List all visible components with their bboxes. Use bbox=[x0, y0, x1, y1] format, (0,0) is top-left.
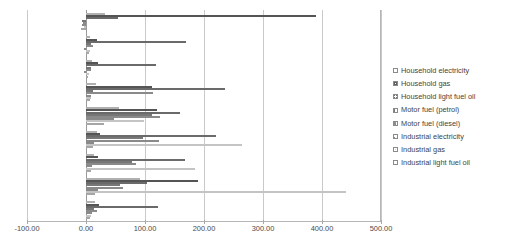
legend-label: Industrial electricity bbox=[401, 133, 464, 140]
plot-area bbox=[27, 10, 381, 222]
bar-group bbox=[27, 198, 381, 222]
x-axis-tick-label: -100.00 bbox=[14, 224, 39, 233]
bar bbox=[86, 217, 90, 219]
bar bbox=[86, 92, 153, 94]
bar bbox=[81, 28, 86, 30]
bar-group bbox=[27, 104, 381, 128]
x-axis-tick-label: 500.00 bbox=[370, 224, 393, 233]
legend-swatch-icon bbox=[393, 81, 398, 86]
legend-item[interactable]: Household gas bbox=[393, 77, 505, 90]
legend-item[interactable]: Motor fuel (diesel) bbox=[393, 117, 505, 130]
x-axis-tick-label: 400.00 bbox=[311, 224, 334, 233]
bar bbox=[86, 45, 93, 47]
bar bbox=[86, 144, 242, 146]
legend-swatch-icon bbox=[393, 108, 398, 113]
bar bbox=[86, 193, 95, 195]
x-axis-tick-label: 300.00 bbox=[252, 224, 275, 233]
legend-item[interactable]: Household electricity bbox=[393, 64, 505, 77]
legend-item[interactable]: Household light fuel oil bbox=[393, 90, 505, 103]
bar bbox=[86, 163, 136, 165]
bar-group bbox=[27, 57, 381, 81]
bar-group bbox=[27, 10, 381, 34]
legend-label: Motor fuel (diesel) bbox=[401, 120, 460, 127]
legend-item[interactable]: Industrial light fuel oil bbox=[393, 156, 505, 169]
y-axis-labels: UKSpainPolandNetherlandsItalyGermanyFran… bbox=[0, 10, 27, 222]
bar bbox=[86, 17, 118, 19]
x-axis-tick-label: 0.00 bbox=[79, 224, 93, 233]
bar bbox=[86, 168, 195, 170]
bar bbox=[86, 170, 91, 172]
legend-swatch-icon bbox=[393, 134, 398, 139]
bar bbox=[86, 15, 316, 17]
bar bbox=[86, 99, 90, 101]
bar-group bbox=[27, 128, 381, 152]
bar bbox=[86, 140, 159, 142]
bar-group bbox=[27, 34, 381, 58]
bar-groups bbox=[27, 10, 381, 222]
bar-group bbox=[27, 81, 381, 105]
bar bbox=[86, 191, 346, 193]
bar bbox=[86, 88, 225, 90]
bar bbox=[86, 76, 88, 78]
legend-swatch-icon bbox=[393, 160, 398, 165]
legend-swatch-icon bbox=[393, 121, 398, 126]
legend-label: Household light fuel oil bbox=[401, 93, 475, 100]
bar bbox=[86, 123, 104, 125]
bar-chart: UKSpainPolandNetherlandsItalyGermanyFran… bbox=[0, 0, 508, 245]
legend-label: Industrial light fuel oil bbox=[401, 159, 470, 166]
legend-item[interactable]: Industrial electricity bbox=[393, 130, 505, 143]
legend-swatch-icon bbox=[393, 94, 398, 99]
legend-swatch-icon bbox=[393, 68, 398, 73]
legend-label: Industrial gas bbox=[401, 146, 445, 153]
bar bbox=[86, 52, 89, 54]
legend-swatch-icon bbox=[393, 147, 398, 152]
legend-label: Household electricity bbox=[401, 67, 469, 74]
legend-label: Motor fuel (petrol) bbox=[401, 106, 459, 113]
bar bbox=[86, 206, 158, 208]
gridline bbox=[381, 10, 382, 222]
legend-item[interactable]: Motor fuel (petrol) bbox=[393, 104, 505, 117]
bar bbox=[86, 41, 186, 43]
bar bbox=[86, 146, 93, 148]
bar bbox=[86, 64, 156, 66]
legend-label: Household gas bbox=[401, 80, 450, 87]
x-axis-tick-label: 200.00 bbox=[193, 224, 216, 233]
x-axis-tick-label: 100.00 bbox=[134, 224, 157, 233]
bar-group bbox=[27, 175, 381, 199]
legend-item[interactable]: Industrial gas bbox=[393, 143, 505, 156]
bar-group bbox=[27, 151, 381, 175]
chart-legend: Household electricityHousehold gasHouseh… bbox=[393, 64, 505, 170]
x-axis-labels: -100.000.00100.00200.00300.00400.00500.0… bbox=[0, 224, 381, 238]
bar bbox=[86, 69, 91, 71]
